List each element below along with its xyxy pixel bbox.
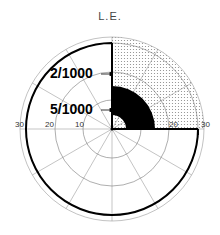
isopter-label-2-1000: 2/1000 — [50, 65, 93, 81]
isopter-arrows — [101, 72, 112, 112]
tick-30-right: 30 — [201, 120, 210, 129]
tick-20-right: 20 — [169, 120, 178, 129]
isopter-label-5-1000: 5/1000 — [50, 101, 93, 117]
fixation-point — [111, 128, 114, 131]
visual-field-chart — [0, 0, 220, 235]
tick-10-left: 10 — [75, 120, 84, 129]
tick-30-left: 30 — [15, 120, 24, 129]
tick-20-left: 20 — [45, 120, 54, 129]
